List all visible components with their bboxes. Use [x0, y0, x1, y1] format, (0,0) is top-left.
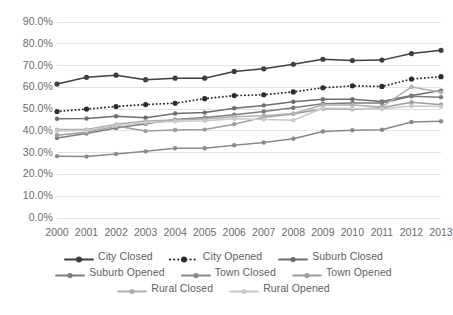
legend-row: Suburb OpenedTown ClosedTown Opened [0, 264, 447, 280]
legend-swatch-icon [117, 283, 147, 294]
x-tick-label: 2002 [104, 226, 127, 238]
x-tick-label: 2000 [45, 226, 68, 238]
legend-swatch-icon [55, 267, 85, 278]
legend-item-town-opened[interactable]: Town Opened [292, 266, 392, 278]
legend-swatch-icon [169, 251, 199, 262]
legend-row: Rural ClosedRural Opened [0, 280, 447, 296]
legend-swatch-icon [278, 251, 308, 262]
chart-legend: City ClosedCity OpenedSuburb ClosedSubur… [0, 248, 447, 315]
x-tick-label: 2008 [282, 226, 305, 238]
x-tick-label: 2012 [400, 226, 423, 238]
legend-item-town-closed[interactable]: Town Closed [181, 266, 276, 278]
legend-label: Town Opened [326, 266, 392, 278]
legend-label: Suburb Opened [89, 266, 164, 278]
legend-swatch-icon [229, 283, 259, 294]
legend-label: City Opened [203, 250, 262, 262]
plot-area: 0.0%10.0%20.0%30.0%40.0%50.0%60.0%70.0%8… [0, 0, 447, 250]
legend-item-suburb-opened[interactable]: Suburb Opened [55, 266, 164, 278]
x-tick-label: 2007 [252, 226, 275, 238]
x-tick-label: 2003 [134, 226, 157, 238]
x-tick-label: 2005 [193, 226, 216, 238]
legend-label: Rural Opened [263, 282, 330, 294]
x-tick-label: 2009 [311, 226, 334, 238]
legend-label: Suburb Closed [312, 250, 383, 262]
x-tick-label: 2004 [163, 226, 186, 238]
legend-label: City Closed [98, 250, 153, 262]
legend-swatch-icon [292, 267, 322, 278]
legend-label: Rural Closed [151, 282, 213, 294]
x-tick-label: 2001 [75, 226, 98, 238]
legend-item-city-closed[interactable]: City Closed [64, 250, 153, 262]
legend-item-rural-opened[interactable]: Rural Opened [229, 282, 330, 294]
legend-swatch-icon [64, 251, 94, 262]
x-tick-label: 2010 [341, 226, 364, 238]
legend-item-city-opened[interactable]: City Opened [169, 250, 262, 262]
legend-swatch-icon [181, 267, 211, 278]
x-axis-tick-labels: 2000200120022003200420052006200720082009… [0, 0, 447, 250]
x-tick-label: 2011 [371, 226, 394, 238]
legend-row: City ClosedCity OpenedSuburb Closed [0, 248, 447, 264]
legend-item-rural-closed[interactable]: Rural Closed [117, 282, 213, 294]
legend-item-suburb-closed[interactable]: Suburb Closed [278, 250, 383, 262]
x-tick-label: 2013 [429, 226, 452, 238]
x-tick-label: 2006 [223, 226, 246, 238]
legend-label: Town Closed [215, 266, 276, 278]
